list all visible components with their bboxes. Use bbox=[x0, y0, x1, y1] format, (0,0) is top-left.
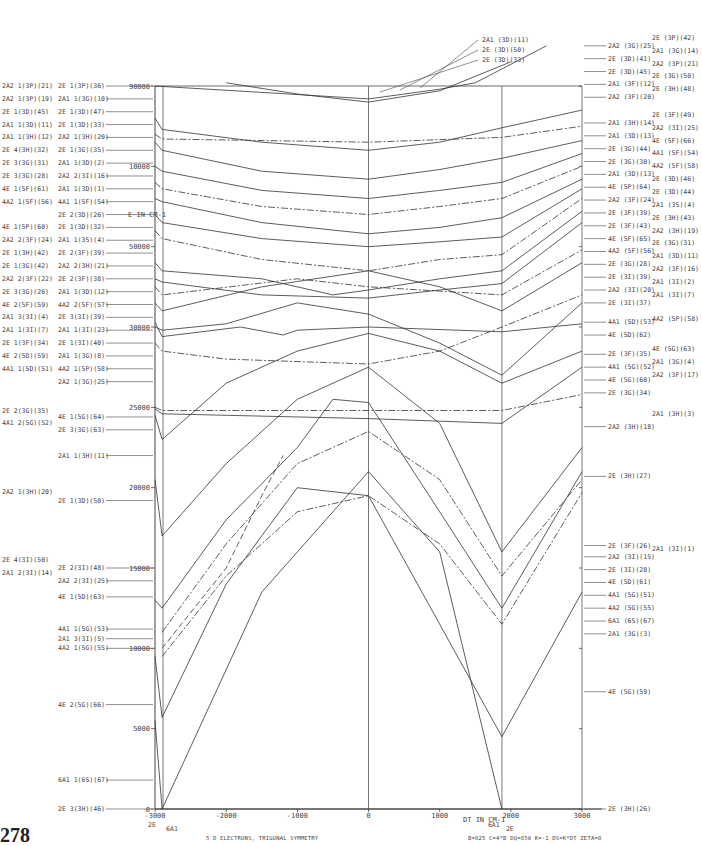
level-label: 4E (5G)(63) bbox=[652, 345, 695, 353]
level-label: 2E 3(3I)(39) bbox=[58, 313, 105, 321]
level-label: 4E (5D)(62) bbox=[608, 331, 651, 339]
level-label: 2E 1(3H)(42) bbox=[2, 249, 49, 257]
level-label: 2A2 (3P)(21) bbox=[652, 60, 699, 68]
level-label: 2A1 (3F)(12) bbox=[608, 80, 655, 88]
level-label: 2E (3F)(43) bbox=[608, 222, 651, 230]
y-tick-label: 90000 bbox=[129, 83, 150, 91]
level-label: 2A1 3(3I)(4) bbox=[2, 313, 49, 321]
level-label: 4A2 (5F)(58) bbox=[652, 162, 699, 170]
level-label: 2A1 1(3D)(2) bbox=[58, 159, 105, 167]
level-label: 4A2 1(5F)(56) bbox=[2, 198, 53, 206]
level-label: 2E 3(3G)(28) bbox=[2, 172, 49, 180]
level-label: 4E 1(5F)(61) bbox=[2, 185, 49, 193]
level-label: 2E 3(3G)(63) bbox=[58, 426, 105, 434]
x-axis: -3000-2000-100001000200030002E6A16A12E bbox=[144, 809, 590, 833]
y-tick-label: 20000 bbox=[129, 484, 150, 492]
y-tick-label: 15000 bbox=[129, 565, 150, 573]
level-label: 4A1 1(5G)(53) bbox=[58, 625, 109, 633]
level-label: 4E 2(5F)(59) bbox=[2, 301, 49, 309]
level-label: 2A1 1(3I)(23) bbox=[58, 326, 109, 334]
level-label: 4A2 (5P)(58) bbox=[652, 315, 699, 323]
energy-level-chart: 0500010000150002000025000300005000010000… bbox=[0, 0, 702, 846]
level-label: 2E (3H)(48) bbox=[652, 85, 695, 93]
level-label: 2A2 2(3F)(24) bbox=[2, 236, 53, 244]
plot-frame bbox=[155, 86, 602, 809]
x-tick-label: 3000 bbox=[574, 812, 591, 820]
level-label: 4E (5F)(66) bbox=[652, 137, 695, 145]
level-label: 2A1 (3I)(1) bbox=[652, 545, 695, 553]
x-tick-label: -1000 bbox=[287, 812, 308, 820]
level-label: 2E (3F)(35) bbox=[608, 350, 651, 358]
leader-line bbox=[380, 60, 478, 92]
series-line bbox=[162, 431, 582, 632]
level-label: 2E (3G)(28) bbox=[608, 260, 651, 268]
level-label: 2A2 2(3I)(16) bbox=[58, 172, 109, 180]
level-label: 2E (3D)(44) bbox=[652, 188, 695, 196]
x-tick-label: 1000 bbox=[431, 812, 448, 820]
level-label: 2E 1(3G)(35) bbox=[58, 146, 105, 154]
level-label: 2A1 (3D)(13) bbox=[608, 170, 655, 178]
level-label: 2A2 2(3F)(22) bbox=[2, 275, 53, 283]
level-label: 2A1 (3H)(14) bbox=[608, 119, 655, 127]
level-label: 2E 2(3D)(26) bbox=[58, 211, 105, 219]
level-label: 2A2 (3G)(25) bbox=[608, 42, 655, 50]
y-tick-label: 25000 bbox=[129, 404, 150, 412]
level-label: 2A1 (3D)(13) bbox=[608, 132, 655, 140]
top-level-label: 2A1 (3D)(11) bbox=[482, 36, 529, 44]
level-label: 2E (3D)(45) bbox=[608, 68, 651, 76]
level-label: 2A2 1(3P)(19) bbox=[2, 95, 53, 103]
level-label: 2E 3(3G)(26) bbox=[2, 288, 49, 296]
level-label: 4A2 (5F)(56) bbox=[608, 247, 655, 255]
leader-line bbox=[420, 40, 478, 88]
level-label: 6A1 1(6S)(67) bbox=[58, 776, 109, 784]
level-label: 2A1 1(3S)(4) bbox=[58, 236, 105, 244]
level-label: 2E 1(3D)(45) bbox=[2, 108, 49, 116]
level-label: 4E 1(5G)(64) bbox=[58, 413, 105, 421]
level-label: 2A2 1(3H)(20) bbox=[2, 488, 53, 496]
level-label: 2E 2(3F)(39) bbox=[58, 249, 105, 257]
level-label: 4A2 1(5P)(58) bbox=[58, 365, 109, 373]
crossing-label: 2E bbox=[506, 825, 514, 833]
level-label: 2E (3H)(43) bbox=[652, 214, 695, 222]
level-label: 2A2 2(3H)(21) bbox=[58, 262, 109, 270]
level-label: 2A1 3(3I)(5) bbox=[58, 635, 105, 643]
level-label: 2A1 (3G)(14) bbox=[652, 47, 699, 55]
level-label: 2E (3H)(26) bbox=[608, 805, 651, 813]
level-label: 2A1 1(3D)(1) bbox=[58, 185, 105, 193]
level-label: 2A1 1(3H)(11) bbox=[58, 452, 109, 460]
level-label: 2A1 1(3D)(12) bbox=[58, 288, 109, 296]
level-label: 2A2 1(3H)(20) bbox=[58, 133, 109, 141]
level-label: 4A2 1(5G)(55) bbox=[58, 644, 109, 652]
level-label: 2E 1(3P)(36) bbox=[58, 82, 105, 90]
level-label: 2A2 (3I)(25) bbox=[652, 124, 699, 132]
level-label: 2E 1(3D)(32) bbox=[58, 223, 105, 231]
level-label: 4A1 2(5G)(52) bbox=[2, 419, 53, 427]
level-label: 2E (3P)(42) bbox=[652, 34, 695, 42]
level-label: 2E (3I)(37) bbox=[608, 299, 651, 307]
level-label: 2A2 1(3P)(21) bbox=[2, 82, 53, 90]
level-label: 2A1 2(3I)(14) bbox=[2, 569, 53, 577]
level-label: 2A2 (3F)(20) bbox=[608, 93, 655, 101]
y-tick-label: 5000 bbox=[133, 725, 150, 733]
level-label: 4A1 (5F)(54) bbox=[652, 149, 699, 157]
leader-line bbox=[400, 50, 478, 90]
level-label: 2A1 (3H)(3) bbox=[652, 410, 695, 418]
level-label: 2A1 (3G)(3) bbox=[608, 630, 651, 638]
y-tick-label: 10000 bbox=[129, 163, 150, 171]
level-label: 2A2 2(3I)(25) bbox=[58, 577, 109, 585]
level-label: 4E 1(5D)(63) bbox=[58, 593, 105, 601]
level-label: 2A1 1(3G)(8) bbox=[58, 352, 105, 360]
level-label: 2A1 1(3D)(11) bbox=[2, 121, 53, 129]
level-label: 2E 1(3I)(40) bbox=[58, 339, 105, 347]
x-tick-label: 0 bbox=[366, 812, 370, 820]
level-label: 2A2 (3I)(20) bbox=[608, 286, 655, 294]
y-axis: 0500010000150002000025000300005000010000… bbox=[129, 83, 582, 814]
series-line bbox=[162, 456, 283, 649]
level-label: 2E (3G)(50) bbox=[652, 72, 695, 80]
level-label: 2A2 (3F)(16) bbox=[652, 265, 699, 273]
level-label: 4A1 1(5F)(54) bbox=[58, 198, 109, 206]
level-label: 6A1 (6S)(67) bbox=[608, 617, 655, 625]
crossing-label: 6A1 bbox=[166, 825, 178, 833]
level-label: 4A2 (5G)(55) bbox=[608, 604, 655, 612]
x-tick-label: -3000 bbox=[144, 812, 165, 820]
